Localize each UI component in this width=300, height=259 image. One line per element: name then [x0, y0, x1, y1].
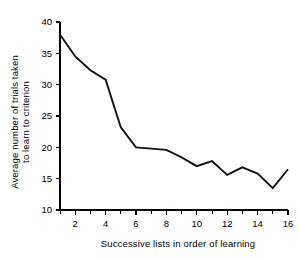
x-tick-label: 12	[222, 218, 233, 229]
x-tick-label: 16	[283, 218, 294, 229]
y-axis-tick-labels: 10152025303540	[41, 16, 52, 215]
y-axis-label: Average number of trials taken to learn …	[9, 55, 31, 189]
y-tick-label: 10	[41, 204, 52, 215]
line-chart-figure: 10152025303540 246810121416 Successive l…	[0, 0, 300, 259]
x-axis-tick-labels: 246810121416	[73, 218, 294, 229]
x-axis-label: Successive lists in order of learning	[101, 238, 255, 249]
y-tick-label: 30	[41, 79, 52, 90]
y-tick-label: 35	[41, 48, 52, 59]
axis-spines	[60, 22, 288, 210]
x-tick-label: 2	[73, 218, 78, 229]
axes-group	[60, 22, 288, 210]
x-tick-label: 6	[133, 218, 138, 229]
y-axis-label-line-2: to learn to criterion	[20, 81, 31, 163]
x-tick-label: 14	[252, 218, 263, 229]
x-tick-label: 10	[192, 218, 203, 229]
x-tick-label: 4	[103, 218, 108, 229]
y-tick-label: 15	[41, 173, 52, 184]
x-tick-label: 8	[164, 218, 169, 229]
y-axis-label-line-1: Average number of trials taken	[9, 55, 20, 189]
y-tick-label: 40	[41, 16, 52, 27]
data-series-group	[60, 35, 288, 189]
y-axis-ticks	[56, 22, 60, 210]
x-axis-ticks	[60, 210, 288, 215]
y-tick-label: 20	[41, 142, 52, 153]
y-tick-label: 25	[41, 110, 52, 121]
chart-plot-area: 10152025303540 246810121416 Successive l…	[0, 0, 300, 259]
data-series-line	[60, 35, 288, 189]
